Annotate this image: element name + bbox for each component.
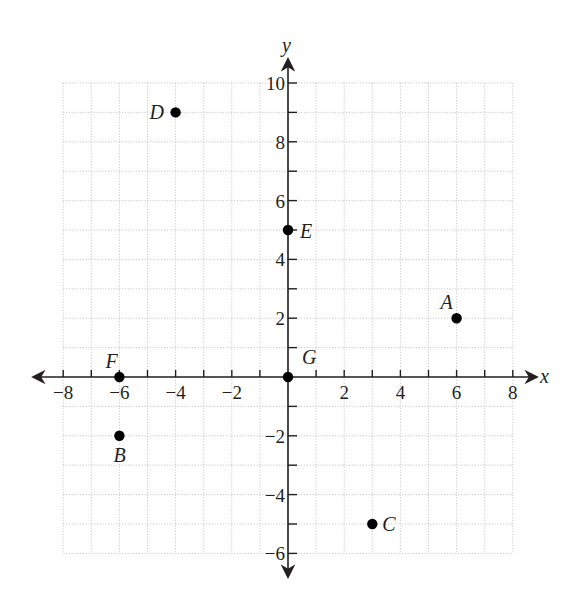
x-tick-label: −8	[53, 382, 73, 403]
y-tick-label: −4	[265, 485, 286, 506]
y-axis-title: y	[280, 34, 291, 57]
x-tick-label: −4	[165, 382, 186, 403]
point-marker	[114, 372, 124, 382]
point-label: B	[113, 444, 125, 466]
x-tick-label: 6	[452, 382, 462, 403]
point-marker	[283, 225, 293, 235]
x-tick-label: 2	[339, 382, 349, 403]
y-tick-label: −6	[265, 543, 285, 564]
y-tick-label: 4	[276, 249, 286, 270]
y-tick-label: 8	[276, 132, 286, 153]
x-tick-label: −6	[109, 382, 129, 403]
point-marker	[367, 519, 377, 529]
tick-labels: −8−6−4−22468108642−2−4−6	[53, 73, 517, 564]
y-tick-label: 2	[276, 308, 286, 329]
point-marker	[114, 431, 124, 441]
y-tick-label: 6	[276, 191, 286, 212]
point-label: E	[299, 220, 312, 242]
point-label: C	[382, 513, 396, 535]
point-label: F	[104, 350, 118, 372]
y-tick-label: −2	[265, 426, 285, 447]
point-label: G	[302, 346, 317, 368]
point-label: D	[149, 101, 165, 123]
point-marker	[451, 313, 461, 323]
x-tick-label: −2	[222, 382, 242, 403]
x-tick-label: 8	[508, 382, 518, 403]
y-tick-label: 10	[266, 73, 285, 94]
point-marker	[170, 107, 180, 117]
point-b: B	[113, 431, 125, 466]
x-axis-title: x	[539, 365, 549, 387]
point-c: C	[367, 513, 396, 535]
x-tick-label: 4	[396, 382, 406, 403]
coordinate-plane: −8−6−4−22468108642−2−4−6 ABCDEFG x y	[0, 0, 584, 599]
point-label: A	[439, 291, 454, 313]
point-marker	[283, 372, 293, 382]
